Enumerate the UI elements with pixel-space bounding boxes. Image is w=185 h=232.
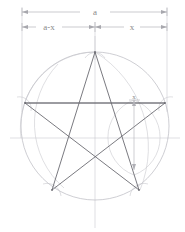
construction-arc-upper-left xyxy=(34,64,64,188)
dimension-a-arrow-left xyxy=(22,10,28,14)
dimension-a-minus-x-label: a-x xyxy=(43,22,55,32)
dimension-x-arrow-right xyxy=(161,25,167,29)
construction-arc-inner-right-mirror xyxy=(108,100,134,175)
construction-arc-left xyxy=(20,52,95,138)
construction-arc-inner-right xyxy=(134,100,160,175)
pentagram-construction-drawing: a a-x x xyxy=(0,0,185,232)
vertex-marker-left-middle xyxy=(24,102,26,104)
star-edge-top-to-right-bottom xyxy=(95,52,139,190)
vertex-marker-left-bottom xyxy=(51,189,53,191)
vertex-marker-right-middle xyxy=(164,102,166,104)
dimension-a-arrow-right xyxy=(161,10,167,14)
star-edge-right-bottom-to-left-middle xyxy=(25,103,139,190)
dimension-x-vertical xyxy=(129,100,140,170)
construction-arc-right-long xyxy=(95,52,148,190)
vertex-marker-right-bottom xyxy=(138,189,140,191)
centre-axes xyxy=(10,36,180,228)
star-edge-left-bottom-to-top xyxy=(52,52,95,190)
dimension-axm-arrow-left xyxy=(22,25,28,29)
dimension-a-minus-x xyxy=(22,22,95,32)
dimension-x-vertical-label: x xyxy=(132,93,136,101)
vertex-marker-top xyxy=(94,51,96,53)
dimension-x-right-label: x xyxy=(130,22,135,32)
dimension-x-arrow-left xyxy=(95,25,101,29)
star-edge-right-middle-to-left-bottom xyxy=(52,103,165,190)
dimension-axm-arrow-right xyxy=(89,25,95,29)
figure-canvas: a a-x x xyxy=(0,0,185,232)
dimension-a-label: a xyxy=(93,7,97,17)
